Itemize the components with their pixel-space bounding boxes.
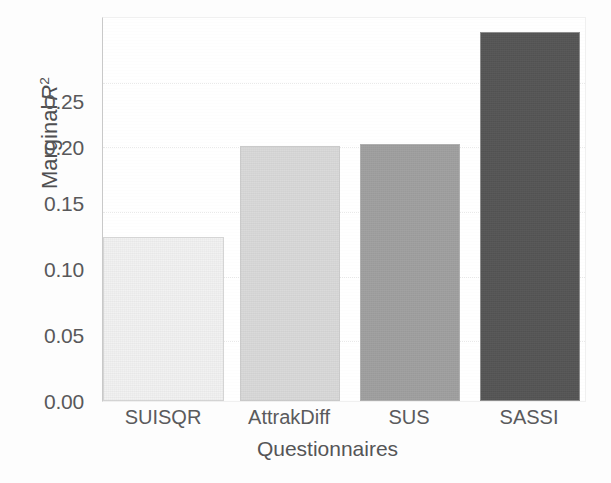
x-tick-label-sassi: SASSI <box>500 406 559 429</box>
figure-canvas: MarginalR2 0.25 0.20 0.15 0.10 0.05 0.00… <box>0 0 611 483</box>
x-tick-label-attrakdiff: AttrakDiff <box>248 406 330 429</box>
y-tick-label: 0.15 <box>14 192 84 216</box>
y-tick-label: 0.20 <box>14 136 84 160</box>
bar-attrakdiff[interactable] <box>240 146 340 401</box>
y-axis-tick-labels: 0.25 0.20 0.15 0.10 0.05 0.00 <box>0 17 92 402</box>
bar-suisqr[interactable] <box>103 237 224 401</box>
bar-series <box>103 18 585 401</box>
x-axis-tick-labels: SUISQR AttrakDiff SUS SASSI <box>102 406 586 436</box>
y-tick-label: 0.25 <box>14 90 84 114</box>
x-axis-title-text: Questionnaires <box>257 437 398 460</box>
x-tick-label-suisqr: SUISQR <box>125 406 202 429</box>
bar-sus[interactable] <box>360 144 460 401</box>
x-axis-title: Questionnaires <box>0 437 611 461</box>
y-tick-label: 0.05 <box>14 324 84 348</box>
x-tick-label-sus: SUS <box>388 406 429 429</box>
y-tick-label: 0.10 <box>14 258 84 282</box>
bar-sassi[interactable] <box>480 32 580 401</box>
y-tick-label: 0.00 <box>14 390 84 414</box>
plot-area <box>102 17 586 402</box>
